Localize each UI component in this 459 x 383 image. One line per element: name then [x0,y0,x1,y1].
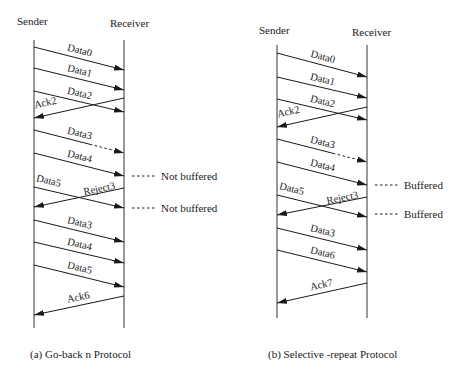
message-arrow: Ack6 [34,289,124,315]
buffer-status-note: Not buffered [161,170,218,182]
message-arrow: Data6 [277,244,367,272]
message-label: Data2 [66,85,93,101]
message-arrow: Data4 [34,236,124,263]
message-arrow: Data3 [277,134,367,162]
message-label: Ack2 [33,95,58,111]
message-arrow: Ack2 [276,104,367,127]
go-back-n-diagram: SenderReceiverData0Data1Data2Ack2Data3Da… [17,15,218,361]
diagram-caption: (b) Selective -repeat Protocol [268,348,397,361]
selective-repeat-diagram: SenderReceiverData0Data1Data2Ack2Data3Da… [259,24,443,361]
buffer-status-note: Buffered [404,179,443,191]
message-label: Ack6 [66,289,91,304]
message-label: Data2 [309,93,336,109]
message-label: Reject3 [326,189,360,206]
protocol-diagrams: SenderReceiverData0Data1Data2Ack2Data3Da… [0,0,459,383]
message-arrow: Data3 [34,125,124,153]
buffer-status-note: Buffered [404,208,443,220]
receiver-header: Receiver [110,17,149,29]
message-label: Reject3 [82,180,116,197]
message-label: Ack7 [309,277,334,293]
message-arrow: Ack7 [277,277,367,303]
message-arrow: Data1 [277,71,367,98]
sender-header: Sender [259,24,290,36]
buffer-status-note: Not buffered [161,202,218,214]
sender-header: Sender [17,15,48,27]
message-arrow: Data4 [34,148,124,176]
message-arrow: Data4 [277,157,367,185]
receiver-header: Receiver [352,26,391,38]
message-label: Data4 [66,236,94,253]
message-label: Ack2 [276,104,301,120]
message-label: Data1 [309,71,336,87]
message-label: Data5 [35,172,62,188]
message-label: Data5 [278,180,305,197]
diagram-caption: (a) Go-back n Protocol [30,348,131,361]
message-arrow: Data5 [34,259,124,287]
